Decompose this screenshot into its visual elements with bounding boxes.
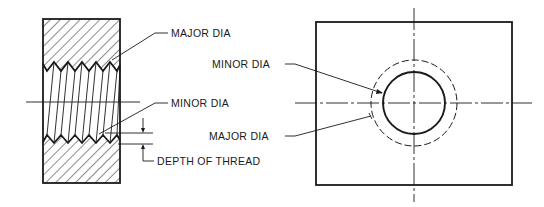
label-major-dia: MAJOR DIA <box>171 27 231 39</box>
end-view: MINOR DIA MAJOR DIA <box>209 8 532 202</box>
leader-minor-dia-end <box>285 64 382 93</box>
section-view: MAJOR DIA MINOR DIA DEPTH OF THREAD <box>26 15 261 188</box>
threaded-hole-drawing: MAJOR DIA MINOR DIA DEPTH OF THREAD MINO… <box>0 0 544 207</box>
thread-lines <box>47 62 120 143</box>
leader-minor-dia <box>99 103 168 134</box>
label-major-dia-end: MAJOR DIA <box>209 130 269 142</box>
label-minor-dia: MINOR DIA <box>171 97 229 109</box>
arrowhead-bottom-icon <box>141 144 145 149</box>
arrowhead-minor-icon <box>376 89 383 94</box>
arrowhead-top-icon <box>141 128 145 133</box>
label-depth-of-thread: DEPTH OF THREAD <box>157 155 261 167</box>
leader-major-dia-end <box>285 116 371 136</box>
label-minor-dia-end: MINOR DIA <box>212 58 270 70</box>
